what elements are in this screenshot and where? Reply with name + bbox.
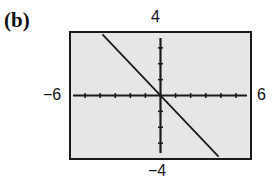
graph-screen <box>0 0 275 182</box>
